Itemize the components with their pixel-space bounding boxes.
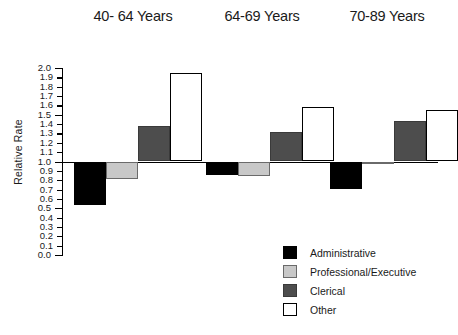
legend-item-professional: Professional/Executive — [283, 262, 451, 281]
group-title-row: 40- 64 Years 64-69 Years 70-89 Years — [0, 8, 451, 34]
y-tick-1.2: 1.2 — [57, 143, 63, 144]
y-tick-0.3: 0.3 — [57, 227, 63, 228]
y-tick-1.5: 1.5 — [55, 115, 63, 116]
bar-other-group2 — [302, 107, 334, 161]
legend-label-clerical: Clerical — [310, 285, 345, 297]
y-tick-0.1: 0.1 — [57, 246, 63, 247]
legend-label-administrative: Administrative — [310, 247, 376, 259]
y-tick-1.3: 1.3 — [57, 133, 63, 134]
y-tick-1.6: 1.6 — [57, 105, 63, 106]
y-tick-0.2: 0.2 — [57, 236, 63, 237]
y-tick-label-0.0: 0.0 — [29, 248, 51, 261]
y-axis-title: Relative Rate — [12, 92, 24, 212]
group-title-64-69: 64-69 Years — [203, 8, 321, 24]
bar-professional-group3 — [362, 162, 394, 164]
bar-administrative-group1 — [74, 162, 106, 206]
bar-clerical-group2 — [270, 132, 302, 162]
plot-area: 2.01.91.81.71.61.51.41.31.21.11.00.90.80… — [62, 68, 438, 255]
group-title-40-64: 40- 64 Years — [68, 8, 198, 24]
bar-clerical-group3 — [394, 121, 426, 161]
bar-clerical-group1 — [138, 126, 170, 162]
swatch-professional-icon — [283, 265, 297, 278]
bar-administrative-group3 — [330, 162, 362, 189]
y-tick-1.1: 1.1 — [57, 152, 63, 153]
legend: Administrative Professional/Executive Cl… — [283, 243, 451, 319]
y-tick-1.9: 1.9 — [57, 77, 63, 78]
legend-item-administrative: Administrative — [283, 243, 451, 262]
bar-professional-group1 — [106, 162, 138, 180]
y-tick-0.6: 0.6 — [57, 199, 63, 200]
y-tick-0.8: 0.8 — [57, 180, 63, 181]
legend-item-other: Other — [283, 300, 451, 319]
swatch-clerical-icon — [283, 284, 297, 297]
swatch-administrative-icon — [283, 246, 297, 259]
bar-other-group1 — [170, 73, 202, 162]
y-tick-0.9: 0.9 — [57, 171, 63, 172]
legend-label-other: Other — [310, 304, 336, 316]
y-tick-1.7: 1.7 — [57, 96, 63, 97]
group-title-70-89: 70-89 Years — [328, 8, 446, 24]
y-tick-0.0: 0.0 — [55, 255, 63, 256]
y-tick-2.0: 2.0 — [55, 68, 63, 69]
y-tick-0.5: 0.5 — [55, 208, 63, 209]
y-tick-0.7: 0.7 — [57, 190, 63, 191]
y-tick-0.4: 0.4 — [57, 218, 63, 219]
y-tick-1.8: 1.8 — [57, 87, 63, 88]
swatch-other-icon — [283, 303, 297, 316]
bar-administrative-group2 — [206, 162, 238, 175]
legend-label-professional: Professional/Executive — [310, 266, 416, 278]
legend-item-clerical: Clerical — [283, 281, 451, 300]
y-tick-1.4: 1.4 — [57, 124, 63, 125]
bar-other-group3 — [426, 110, 458, 161]
bar-professional-group2 — [238, 162, 270, 176]
